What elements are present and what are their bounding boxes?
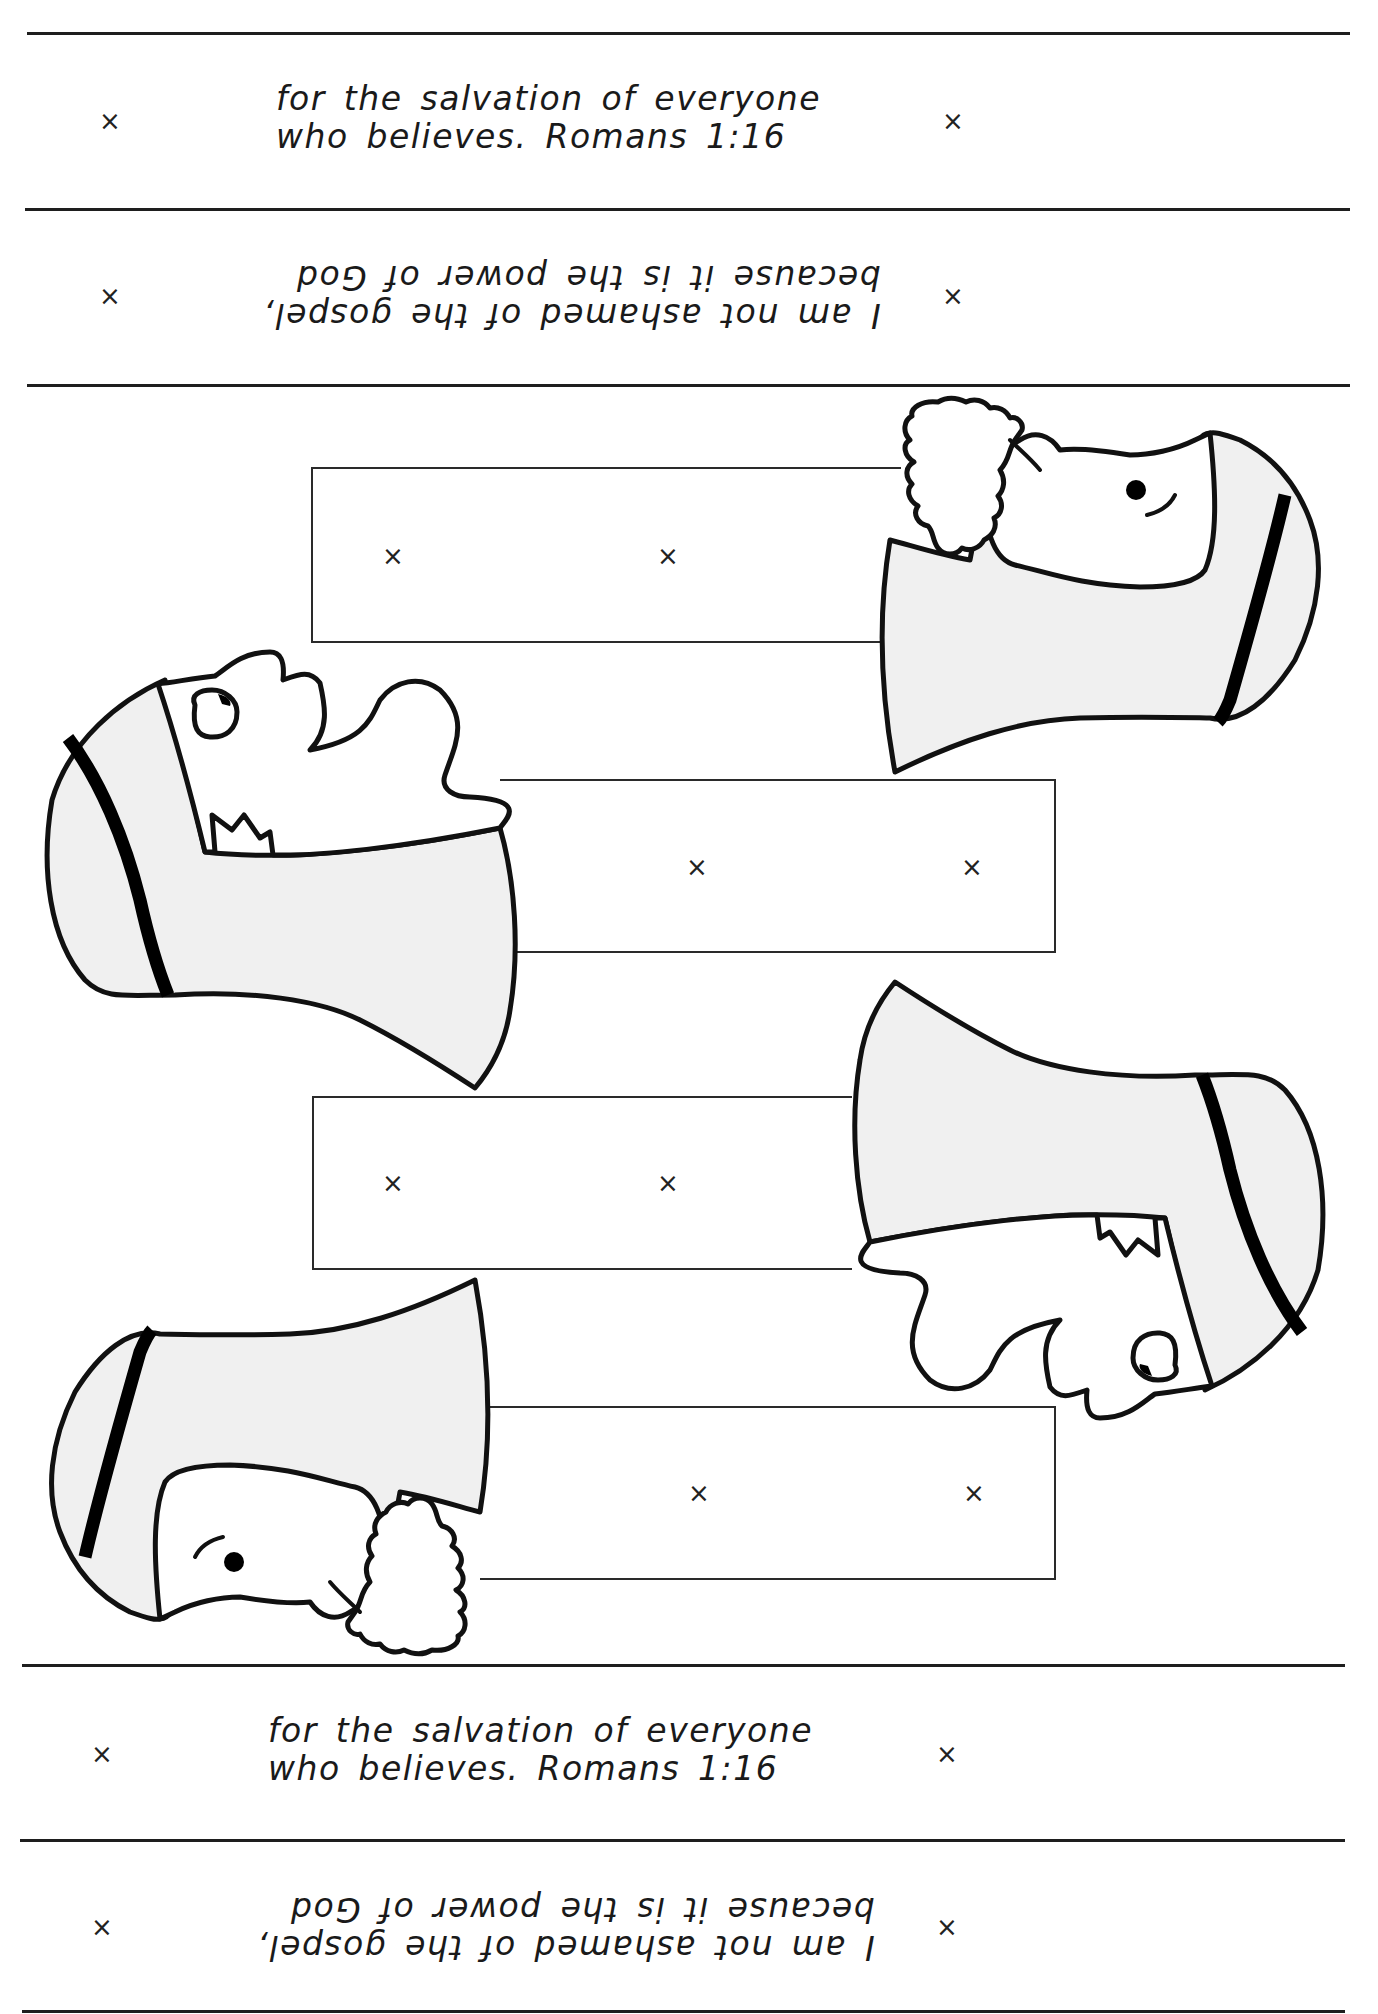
verse-line: I am not ashamed of the gospel, xyxy=(262,296,881,334)
cut-line-top-3 xyxy=(27,384,1350,387)
verse-strip-top-1: for the salvation of everyone who believ… xyxy=(276,80,821,156)
fold-mark-icon: × xyxy=(381,544,405,568)
verse-strip-top-2: I am not ashamed of the gospel, because … xyxy=(262,258,881,334)
cut-line-bottom-3 xyxy=(22,2010,1345,2013)
fold-mark-icon: × xyxy=(90,1742,114,1766)
fold-mark-icon: × xyxy=(935,1742,959,1766)
fold-mark-icon: × xyxy=(941,109,965,133)
puppet-4-figure xyxy=(52,1280,488,1654)
verse-line: who believes. Romans 1:16 xyxy=(276,118,821,156)
cut-line-top-1 xyxy=(27,32,1350,35)
verse-line: because it is the power of God xyxy=(256,1890,875,1928)
verse-line: for the salvation of everyone xyxy=(268,1712,813,1750)
cut-line-bottom-1 xyxy=(22,1664,1345,1667)
fold-mark-icon: × xyxy=(941,284,965,308)
cut-line-bottom-2 xyxy=(20,1839,1345,1842)
fold-mark-icon: × xyxy=(960,855,984,879)
verse-strip-bottom-2: I am not ashamed of the gospel, because … xyxy=(256,1890,875,1966)
fold-mark-icon: × xyxy=(98,284,122,308)
fold-mark-icon: × xyxy=(687,1481,711,1505)
fold-mark-icon: × xyxy=(656,544,680,568)
verse-line: I am not ashamed of the gospel, xyxy=(256,1928,875,1966)
verse-line: for the salvation of everyone xyxy=(276,80,821,118)
fold-mark-icon: × xyxy=(381,1171,405,1195)
fold-mark-icon: × xyxy=(90,1915,114,1939)
verse-line: who believes. Romans 1:16 xyxy=(268,1750,813,1788)
verse-line: because it is the power of God xyxy=(262,258,881,296)
fold-mark-icon: × xyxy=(935,1915,959,1939)
fold-mark-icon: × xyxy=(962,1481,986,1505)
verse-strip-bottom-1: for the salvation of everyone who believ… xyxy=(268,1712,813,1788)
fold-mark-icon: × xyxy=(656,1171,680,1195)
fold-mark-icon: × xyxy=(98,109,122,133)
cut-line-top-2 xyxy=(25,208,1350,211)
fold-mark-icon: × xyxy=(685,855,709,879)
puppet-3-figure xyxy=(855,982,1323,1418)
puppet-1-figure xyxy=(882,398,1318,772)
puppet-2-figure xyxy=(47,652,515,1088)
